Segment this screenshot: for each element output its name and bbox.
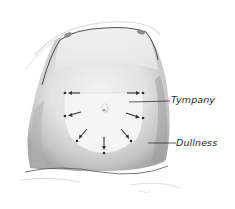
umbilicus-center <box>103 109 105 111</box>
dot-top-right <box>142 92 145 95</box>
sheet-lower <box>10 168 200 205</box>
umbilicus-icon <box>101 104 109 113</box>
dot-top-left <box>64 92 67 95</box>
dot-bottom <box>103 152 106 155</box>
dot-low-right <box>130 140 133 143</box>
dot-mid-right <box>142 117 145 120</box>
tympany-label: Tympany <box>171 94 215 105</box>
dot-mid-left <box>64 115 67 118</box>
abdomen-illustration: Tympany Dullness <box>0 0 235 209</box>
dot-low-left <box>76 140 79 143</box>
dullness-label: Dullness <box>176 137 217 148</box>
